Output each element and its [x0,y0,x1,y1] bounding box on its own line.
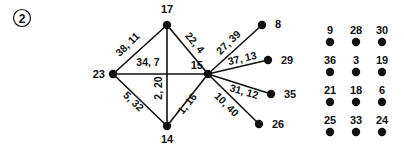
panel-label-group: 2 [14,10,31,27]
grid-item-label: 24 [376,114,389,126]
grid-item-label: 30 [376,24,388,36]
graph-node-label: 17 [161,3,173,15]
edge-weight-label: 37, 13 [227,49,258,67]
graph-node-label: 8 [275,18,281,30]
graph-node-label: 35 [284,88,296,100]
grid-item-label: 19 [376,54,388,66]
grid-item-dot [326,98,334,106]
figure-canvas: 2 38, 1122, 434, 75, 322, 201, 1627, 393… [0,0,404,149]
grid-item-dot [352,98,360,106]
graph-figure: 2 38, 1122, 434, 75, 322, 201, 1627, 393… [0,0,404,149]
graph-node-label: 14 [161,133,174,145]
edge-weight-label: 5, 32 [121,89,146,114]
grid-item-dot [352,38,360,46]
edge-weight-label: 38, 11 [113,30,142,59]
graph-node-label: 23 [93,68,105,80]
grid-item-label: 6 [379,84,385,96]
grid-item-dot [378,128,386,136]
graph-node-dot [204,70,212,78]
graph-node-dot [267,90,275,98]
graph-node-label: 15 [191,59,203,71]
grid-layer: 928303631921186253324 [324,24,389,136]
graph-node-dot [163,21,171,29]
graph-node-label: 29 [281,54,293,66]
grid-item-dot [326,68,334,76]
graph-node-dot [264,56,272,64]
grid-item-label: 9 [327,24,333,36]
grid-item-label: 21 [324,84,336,96]
edge-weight-label: 34, 7 [136,56,160,68]
grid-item-label: 3 [353,54,359,66]
edge-weight-label: 2, 20 [152,76,164,100]
grid-item-dot [378,98,386,106]
grid-item-label: 18 [350,84,362,96]
edge-weight-label: 1, 16 [175,91,199,117]
grid-item-label: 28 [350,24,362,36]
edge-weight-label: 22, 4 [183,30,207,56]
grid-item-dot [378,68,386,76]
graph-node-dot [109,70,117,78]
grid-item-dot [378,38,386,46]
panel-label-number: 2 [19,12,26,26]
graph-node-dot [258,21,266,29]
grid-item-dot [352,68,360,76]
grid-item-label: 25 [324,114,336,126]
graph-node-label: 26 [272,118,284,130]
grid-item-label: 33 [350,114,362,126]
grid-item-dot [326,128,334,136]
grid-item-label: 36 [324,54,336,66]
grid-item-dot [352,128,360,136]
graph-node-dot [255,120,263,128]
grid-item-dot [326,38,334,46]
graph-node-dot [163,122,171,130]
